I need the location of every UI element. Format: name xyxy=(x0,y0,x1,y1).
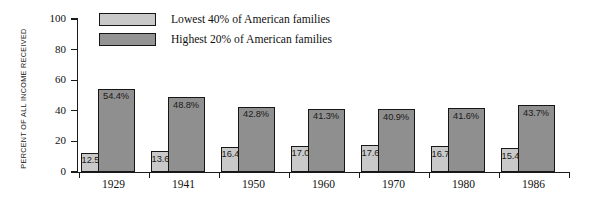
y-axis-tick-label: 60 xyxy=(26,73,66,85)
bar-highest20-1950: 42.8% xyxy=(238,107,275,172)
bar-highest20-1941: 48.8% xyxy=(168,97,205,172)
bar-value-label: 48.8% xyxy=(169,100,204,110)
legend-swatch-high xyxy=(99,33,156,46)
x-axis-line xyxy=(77,172,570,173)
y-axis-tick xyxy=(71,80,78,81)
x-axis-label-1941: 1941 xyxy=(149,178,219,190)
legend-swatch-low xyxy=(99,13,156,26)
y-axis-tick-label: 0 xyxy=(26,165,66,177)
y-axis-tick-label: 100 xyxy=(26,12,66,24)
x-axis-tick xyxy=(569,173,570,178)
bar-highest20-1970: 40.9% xyxy=(378,109,415,172)
bar-highest20-1980: 41.6% xyxy=(448,108,485,172)
y-axis-tick xyxy=(71,141,78,142)
x-axis-label-1960: 1960 xyxy=(289,178,359,190)
y-axis-tick xyxy=(71,49,78,50)
bar-value-label: 40.9% xyxy=(379,112,414,122)
legend-label: Lowest 40% of American families xyxy=(171,13,330,26)
bar-highest20-1960: 41.3% xyxy=(308,109,345,172)
bar-value-label: 42.8% xyxy=(239,109,274,119)
bar-value-label: 54.4% xyxy=(99,91,134,101)
bar-value-label: 43.7% xyxy=(519,108,554,118)
x-axis-label-1950: 1950 xyxy=(219,178,289,190)
legend-item-lowest40: Lowest 40% of American families xyxy=(99,13,330,26)
income-distribution-bar-chart: PERCENT OF ALL INCOME RECEIVED 020406080… xyxy=(0,0,593,202)
legend-item-highest20: Highest 20% of American families xyxy=(99,33,332,46)
y-axis-tick-label: 20 xyxy=(26,134,66,146)
y-axis-line xyxy=(77,19,78,173)
legend-label: Highest 20% of American families xyxy=(171,33,332,46)
x-axis-label-1980: 1980 xyxy=(429,178,499,190)
bar-value-label: 41.6% xyxy=(449,111,484,121)
y-axis-title: PERCENT OF ALL INCOME RECEIVED xyxy=(19,14,28,184)
y-axis-tick-label: 40 xyxy=(26,104,66,116)
x-axis-label-1929: 1929 xyxy=(79,178,149,190)
bar-highest20-1929: 54.4% xyxy=(98,89,135,172)
x-axis-label-1986: 1986 xyxy=(499,178,569,190)
bar-value-label: 41.3% xyxy=(309,111,344,121)
y-axis-tick xyxy=(71,18,78,19)
x-axis-label-1970: 1970 xyxy=(359,178,429,190)
y-axis-tick xyxy=(71,110,78,111)
bar-highest20-1986: 43.7% xyxy=(518,105,555,172)
y-axis-tick xyxy=(71,171,78,172)
y-axis-tick-label: 80 xyxy=(26,43,66,55)
